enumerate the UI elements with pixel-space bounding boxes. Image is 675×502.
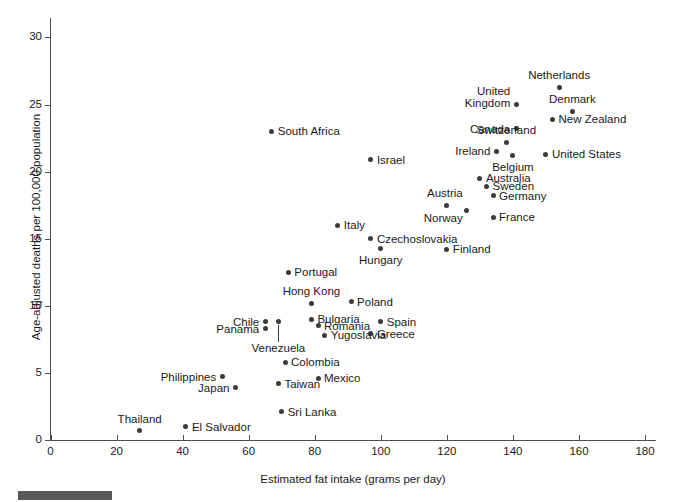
x-tick-label-40: 40 (163, 445, 203, 457)
data-point (378, 319, 383, 324)
data-point (510, 153, 515, 158)
x-tick-label-0: 0 (31, 445, 71, 457)
data-point (276, 381, 281, 386)
point-label: Netherlands (528, 69, 590, 81)
point-label: Ireland (455, 145, 490, 157)
y-tick-10 (45, 306, 51, 307)
y-tick-20 (45, 172, 51, 173)
x-tick-label-180: 180 (625, 445, 665, 457)
point-label: El Salvador (192, 421, 251, 433)
y-tick-30 (45, 37, 51, 38)
y-tick-5 (45, 373, 51, 374)
point-label: Norway (424, 212, 463, 224)
x-axis-title: Estimated fat intake (grams per day) (50, 473, 656, 485)
data-point (349, 299, 354, 304)
data-point (322, 333, 327, 338)
point-label: Germany (499, 190, 546, 202)
point-label: Hungary (359, 254, 402, 266)
point-label: Portugal (294, 266, 337, 278)
y-axis-line (50, 18, 51, 441)
x-tick-40 (183, 435, 184, 441)
point-label: Switzerland (477, 124, 536, 136)
data-point (183, 424, 188, 429)
y-tick-label-0: 0 (16, 434, 42, 446)
data-point (283, 360, 288, 365)
data-point (263, 326, 268, 331)
data-point (269, 129, 274, 134)
data-point (491, 193, 496, 198)
x-tick-label-60: 60 (229, 445, 269, 457)
x-tick-label-120: 120 (427, 445, 467, 457)
point-label: Venezuela (252, 342, 306, 354)
data-point (137, 428, 142, 433)
y-tick-25 (45, 105, 51, 106)
data-point (491, 215, 496, 220)
x-axis-line (50, 440, 656, 441)
data-point (220, 374, 225, 379)
data-point (309, 301, 314, 306)
point-label: Sri Lanka (288, 406, 337, 418)
data-point (484, 184, 489, 189)
point-label: New Zealand (559, 113, 627, 125)
point-label: Italy (344, 219, 365, 231)
point-label: South Africa (278, 125, 340, 137)
data-point (550, 117, 555, 122)
x-tick-label-100: 100 (361, 445, 401, 457)
data-point (444, 247, 449, 252)
data-point (233, 385, 238, 390)
x-tick-20 (117, 435, 118, 441)
point-label: Hong Kong (283, 285, 341, 297)
point-label: Yugoslavia (331, 329, 387, 341)
x-tick-label-20: 20 (97, 445, 137, 457)
data-point (477, 176, 482, 181)
label-leader-line (278, 325, 279, 342)
x-tick-140 (513, 435, 514, 441)
data-point (368, 236, 373, 241)
data-point (279, 409, 284, 414)
x-tick-label-140: 140 (493, 445, 533, 457)
data-point (494, 149, 499, 154)
data-point (444, 203, 449, 208)
point-label: Colombia (291, 356, 340, 368)
data-point (286, 270, 291, 275)
x-tick-60 (249, 435, 250, 441)
data-point (276, 319, 281, 324)
point-label: UnitedKingdom (465, 85, 510, 109)
data-point (368, 157, 373, 162)
x-tick-180 (645, 435, 646, 441)
x-tick-label-160: 160 (559, 445, 599, 457)
data-point (464, 208, 469, 213)
data-point (504, 140, 509, 145)
point-label: Austria (427, 187, 463, 199)
data-point (316, 323, 321, 328)
x-tick-0 (51, 435, 52, 441)
point-label: Denmark (549, 93, 596, 105)
x-tick-label-80: 80 (295, 445, 335, 457)
data-point (543, 152, 548, 157)
point-label: Taiwan (284, 378, 320, 390)
point-label: Thailand (118, 413, 162, 425)
point-label: Israel (377, 154, 405, 166)
x-tick-160 (579, 435, 580, 441)
data-point (378, 246, 383, 251)
point-label: Panama (216, 323, 259, 335)
x-tick-80 (315, 435, 316, 441)
y-tick-label-30: 30 (16, 31, 42, 43)
data-point (514, 102, 519, 107)
y-tick-15 (45, 239, 51, 240)
footer-bar (18, 491, 112, 500)
point-label: Japan (198, 382, 229, 394)
data-point (557, 85, 562, 90)
point-label: Spain (387, 316, 416, 328)
point-label: Poland (357, 296, 393, 308)
point-label: United States (552, 148, 621, 160)
x-tick-100 (381, 435, 382, 441)
y-axis-title: Age-adjusted deaths per 100,000 populati… (30, 77, 42, 377)
data-point (309, 317, 314, 322)
data-point (335, 223, 340, 228)
point-label: Mexico (324, 372, 360, 384)
data-point (263, 319, 268, 324)
scatter-plot-figure: 051015202530 020406080100120140160180 Ne… (0, 0, 675, 502)
x-tick-120 (447, 435, 448, 441)
point-label: France (499, 211, 535, 223)
